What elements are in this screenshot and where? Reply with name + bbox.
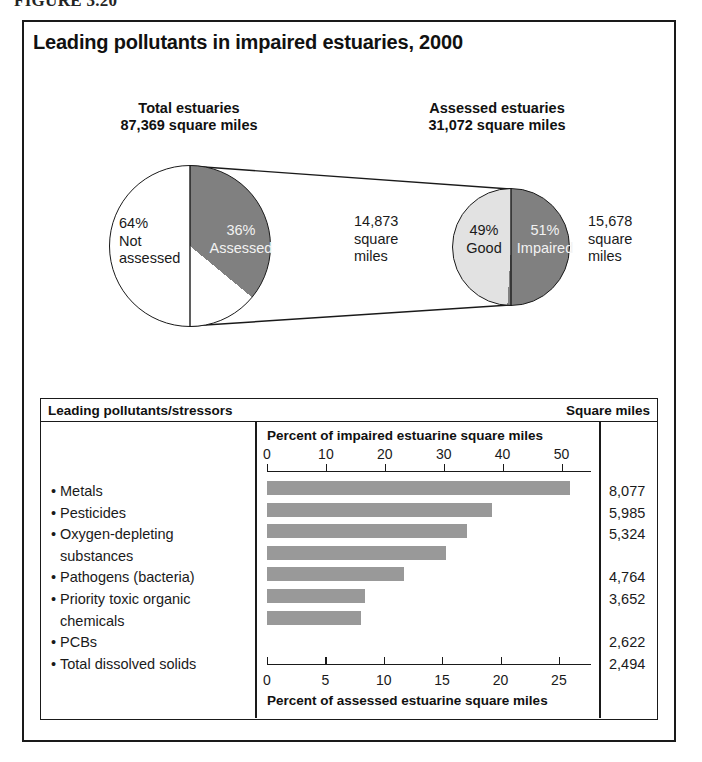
impaired-value-unit2: miles	[588, 248, 658, 266]
bar	[267, 611, 361, 625]
bar	[267, 546, 446, 560]
top-tick-label: 0	[252, 446, 282, 462]
figure-caption: FIGURE 3.20	[14, 0, 117, 11]
good-percent: 49%	[456, 222, 512, 240]
pollutant-label: •Metals	[51, 481, 251, 503]
table-header-row: Leading pollutants/stressors Square mile…	[41, 399, 657, 422]
pie-label-not-assessed: 64% Not assessed	[119, 215, 199, 268]
pollutants-table: Leading pollutants/stressors Square mile…	[40, 398, 658, 720]
square-miles-value-list: 8,0775,9855,324 4,7643,652 2,6222,494	[609, 481, 671, 675]
pollutant-label: •Pathogens (bacteria)	[51, 567, 251, 589]
pollutant-label: chemicals	[51, 611, 251, 633]
good-value: 14,873	[354, 213, 418, 231]
top-axis-line	[267, 471, 591, 472]
top-tick-label: 20	[370, 446, 400, 462]
bottom-tick-mark	[384, 657, 385, 664]
square-miles-value: 2,622	[609, 632, 671, 654]
good-label: Good	[456, 240, 512, 258]
pollutant-label: •Total dissolved solids	[51, 654, 251, 676]
top-tick-mark	[267, 464, 268, 471]
top-tick-mark	[444, 464, 445, 471]
assessed-percent: 36%	[202, 222, 280, 240]
bottom-axis-line	[267, 664, 591, 665]
bar-plot-area: 01020304050 0510152025	[255, 422, 599, 718]
square-miles-value: 3,652	[609, 589, 671, 611]
pollutant-label: substances	[51, 546, 251, 568]
square-miles-spacer	[609, 546, 671, 568]
bottom-tick-label: 15	[427, 672, 457, 688]
pie-label-assessed: 36% Assessed	[202, 222, 280, 257]
impaired-value: 15,678	[588, 213, 658, 231]
pollutant-label: •Priority toxic organic	[51, 589, 251, 611]
top-tick-label: 10	[311, 446, 341, 462]
bottom-tick-label: 0	[252, 672, 282, 688]
column-header-square-miles: Square miles	[566, 403, 650, 418]
impaired-label: Impaired	[512, 240, 578, 258]
good-value-unit2: miles	[354, 248, 418, 266]
impaired-square-miles-callout: 15,678 square miles	[588, 213, 658, 266]
table-divider-right	[599, 422, 601, 718]
bottom-tick-label: 25	[544, 672, 574, 688]
column-header-pollutants: Leading pollutants/stressors	[48, 403, 233, 418]
bottom-tick-mark	[325, 657, 326, 664]
square-miles-value: 8,077	[609, 481, 671, 503]
top-tick-label: 40	[488, 446, 518, 462]
table-body: Percent of impaired estuarine square mil…	[41, 422, 657, 718]
top-tick-mark	[385, 464, 386, 471]
impaired-value-unit1: square	[588, 231, 658, 249]
bar	[267, 589, 365, 603]
page-title: Leading pollutants in impaired estuaries…	[33, 31, 463, 54]
bottom-tick-label: 10	[369, 672, 399, 688]
bar	[267, 503, 492, 517]
square-miles-value: 5,985	[609, 503, 671, 525]
square-miles-value: 2,494	[609, 654, 671, 676]
pollutant-label: •PCBs	[51, 632, 251, 654]
pollutant-label: •Pesticides	[51, 503, 251, 525]
good-square-miles-callout: 14,873 square miles	[354, 213, 418, 266]
top-tick-label: 30	[429, 446, 459, 462]
bar-series	[267, 481, 591, 632]
not-assessed-line1: Not	[119, 233, 199, 251]
not-assessed-line2: assessed	[119, 250, 199, 268]
top-tick-mark	[562, 464, 563, 471]
bottom-tick-mark	[559, 657, 560, 664]
pie-label-impaired: 51% Impaired	[512, 222, 578, 257]
not-assessed-percent: 64%	[119, 215, 199, 233]
bar	[267, 567, 404, 581]
top-tick-mark	[503, 464, 504, 471]
bottom-tick-mark	[442, 657, 443, 664]
pollutant-label: •Oxygen-depleting	[51, 524, 251, 546]
pollutant-label-list: •Metals•Pesticides•Oxygen-depletingsubst…	[51, 481, 251, 675]
square-miles-value: 5,324	[609, 524, 671, 546]
top-tick-label: 50	[547, 446, 577, 462]
assessed-label: Assessed	[202, 240, 280, 258]
impaired-percent: 51%	[512, 222, 578, 240]
top-tick-mark	[326, 464, 327, 471]
bottom-tick-label: 20	[486, 672, 516, 688]
pie-label-good: 49% Good	[456, 222, 512, 257]
bottom-tick-mark	[501, 657, 502, 664]
bar	[267, 481, 570, 495]
square-miles-spacer	[609, 611, 671, 633]
square-miles-value: 4,764	[609, 567, 671, 589]
bar	[267, 524, 467, 538]
pie-section: Total estuaries 87,369 square miles Asse…	[24, 70, 674, 380]
good-value-unit1: square	[354, 231, 418, 249]
bottom-tick-label: 5	[310, 672, 340, 688]
bottom-tick-mark	[267, 657, 268, 664]
